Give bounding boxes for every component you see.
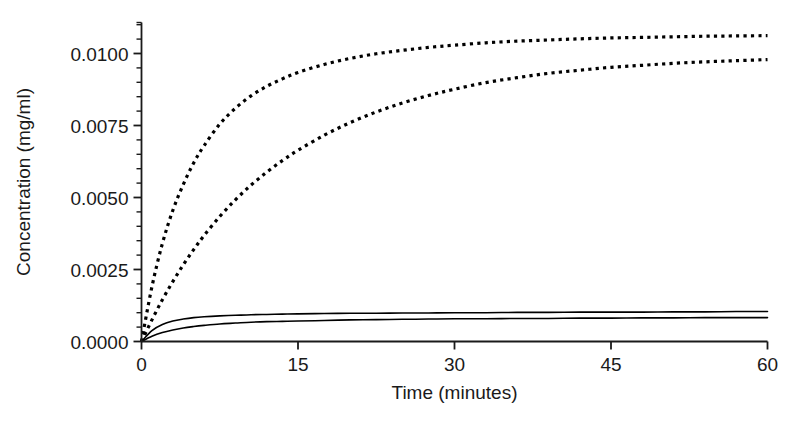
x-axis-tick-label: 15 — [287, 354, 308, 375]
concentration-vs-time-plot: 0.00000.00250.00500.00750.0100015304560T… — [0, 0, 798, 425]
y-axis-tick-label: 0.0050 — [70, 188, 128, 209]
y-axis-tick-label: 0.0025 — [70, 260, 128, 281]
series-line-lower-solid — [142, 318, 768, 342]
x-axis-tick-label: 30 — [444, 354, 465, 375]
x-axis-tick-label: 45 — [600, 354, 621, 375]
y-axis-tick-label: 0.0100 — [70, 44, 128, 65]
series-line-upper-solid — [142, 312, 768, 342]
axis-label-layer: 0.00000.00250.00500.00750.0100015304560T… — [13, 44, 778, 403]
y-axis-tick-label: 0.0075 — [70, 116, 128, 137]
x-axis-tick-label: 0 — [136, 354, 147, 375]
data-series-layer — [142, 36, 768, 342]
chart-figure: 0.00000.00250.00500.00750.0100015304560T… — [0, 0, 798, 425]
y-axis-tick-label: 0.0000 — [70, 332, 128, 353]
x-axis-title: Time (minutes) — [392, 382, 518, 403]
y-axis-title: Concentration (mg/ml) — [13, 88, 34, 276]
series-line-lower-dotted — [142, 60, 768, 342]
axis-layer — [134, 23, 768, 350]
series-line-upper-dotted — [142, 36, 768, 342]
x-axis-tick-label: 60 — [757, 354, 778, 375]
